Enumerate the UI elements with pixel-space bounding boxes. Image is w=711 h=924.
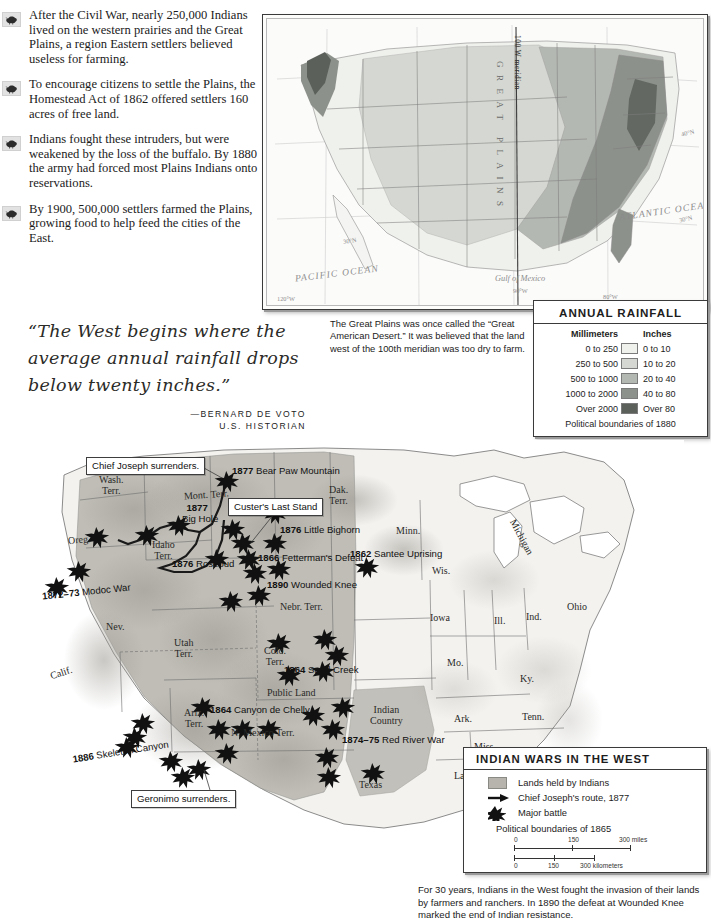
legend-mm-value: 1000 to 2000 bbox=[544, 389, 618, 399]
quote-author: —BERNARD DE VOTO bbox=[28, 408, 306, 420]
quote-credential: U.S. HISTORIAN bbox=[28, 420, 306, 432]
battle-label-rosebud: 1876 Rosebud bbox=[172, 558, 234, 569]
state-label: Ind. bbox=[526, 612, 542, 623]
state-label: Minn. bbox=[396, 526, 420, 537]
legend-mm-value: 500 to 1000 bbox=[544, 374, 618, 384]
pull-quote: “The West begins where the average annua… bbox=[28, 318, 328, 432]
state-label: N. Mexico Terr. bbox=[231, 728, 295, 739]
list-item: To encourage citizens to settle the Plai… bbox=[2, 77, 260, 121]
annual-rainfall-map[interactable]: 100 W meridian GREAT PLAINS PACIFIC OCEA… bbox=[262, 14, 708, 310]
legend-title: ANNUAL RAINFALL bbox=[559, 306, 682, 319]
scale-miles-bar bbox=[514, 845, 666, 851]
legend-row: 0 to 250 0 to 10 bbox=[544, 341, 697, 356]
list-item-text: To encourage citizens to settle the Plai… bbox=[29, 77, 260, 121]
scale-tick-label: 300 miles bbox=[619, 836, 647, 843]
textbook-page: After the Civil War, nearly 250,000 Indi… bbox=[0, 0, 711, 924]
map-canvas: 100 W meridian GREAT PLAINS PACIFIC OCEA… bbox=[266, 18, 704, 306]
legend-body: Millimeters Inches 0 to 250 0 to 10 250 … bbox=[534, 324, 707, 429]
legend-footnote: Political boundaries of 1880 bbox=[544, 419, 697, 429]
grid-label-90w: 90°W bbox=[513, 287, 528, 294]
state-label: Ky. bbox=[520, 674, 534, 685]
legend-in-value: 40 to 80 bbox=[640, 389, 697, 399]
battle-label-red-river-war: 1874–75 Red River War bbox=[342, 734, 445, 745]
state-label: Nev. bbox=[106, 622, 125, 633]
legend-title-bar: INDIAN WARS IN THE WEST bbox=[464, 748, 706, 770]
legend-row: Over 2000 Over 80 bbox=[544, 401, 697, 416]
battle-label-fettermans-defeat: 1866 Fetterman's Defeat bbox=[258, 552, 363, 563]
state-label: Ark. bbox=[454, 714, 472, 725]
legend-in-value: 0 to 10 bbox=[640, 344, 697, 354]
scale-tick-label: 300 kilometers bbox=[580, 862, 623, 869]
battle-label-little-bighorn: 1876 Little Bighorn bbox=[280, 524, 360, 535]
column-header-inches: Inches bbox=[640, 329, 697, 339]
legend-row: 500 to 1000 20 to 40 bbox=[544, 371, 697, 386]
land-swatch bbox=[488, 777, 518, 789]
legend-in-value: 20 to 40 bbox=[640, 374, 697, 384]
quote-attribution: —BERNARD DE VOTO U.S. HISTORIAN bbox=[28, 408, 328, 432]
state-label: IndianCountry bbox=[370, 705, 403, 726]
indian-wars-legend: INDIAN WARS IN THE WEST Lands held by In… bbox=[463, 747, 707, 873]
legend-mm-value: 0 to 250 bbox=[544, 344, 618, 354]
battle-label-santee-uprising: 1862 Santee Uprising bbox=[350, 548, 442, 559]
bison-icon bbox=[2, 206, 21, 221]
rainfall-map-caption: The Great Plains was once called the “Gr… bbox=[330, 318, 530, 355]
state-label: Ariz.Terr. bbox=[184, 708, 204, 729]
state-label: Dak.Terr. bbox=[329, 485, 348, 506]
scale-km-bar bbox=[514, 855, 666, 861]
callout-chief-joseph-surrenders[interactable]: Chief Joseph surrenders. bbox=[86, 457, 205, 475]
state-label: Wash.Terr. bbox=[99, 475, 123, 496]
battle-label-bear-paw: 1877 Bear Paw Mountain bbox=[232, 465, 340, 476]
state-label: UtahTerr. bbox=[174, 638, 193, 659]
scale-tick-label: 150 bbox=[568, 836, 579, 843]
legend-label: Chief Joseph's route, 1877 bbox=[518, 792, 629, 803]
scale-tick-label: 0 bbox=[514, 836, 518, 843]
arrow-icon bbox=[488, 793, 518, 803]
annual-rainfall-legend: ANNUAL RAINFALL Millimeters Inches 0 to … bbox=[533, 300, 708, 437]
grid-label-120w: 120°W bbox=[277, 295, 295, 302]
scale-bar: 0 150 300 miles 0 150 300 kilometers bbox=[514, 836, 666, 871]
state-label: Ohio bbox=[567, 602, 587, 613]
quote-text: “The West begins where the average annua… bbox=[28, 318, 328, 399]
state-label: Iowa bbox=[430, 613, 450, 624]
summary-bullet-list: After the Civil War, nearly 250,000 Indi… bbox=[2, 8, 260, 256]
star-icon bbox=[488, 805, 518, 821]
legend-body: Lands held by Indians Chief Joseph's rou… bbox=[464, 770, 706, 871]
battle-label-sand-creek: 1864 Sand Creek bbox=[284, 664, 359, 675]
list-item-text: By 1900, 500,000 settlers farmed the Pla… bbox=[29, 202, 260, 246]
indian-wars-map-caption: For 30 years, Indians in the West fought… bbox=[418, 884, 710, 922]
callout-geronimo-surrenders[interactable]: Geronimo surrenders. bbox=[131, 790, 236, 808]
state-label: Texas bbox=[359, 780, 382, 791]
legend-row-battle: Major battle bbox=[488, 805, 706, 820]
column-header-millimeters: Millimeters bbox=[544, 329, 618, 339]
bison-icon bbox=[2, 81, 21, 96]
state-label: Nebr. Terr. bbox=[280, 602, 323, 613]
state-label: Public Land bbox=[267, 688, 316, 699]
legend-mm-value: 250 to 500 bbox=[544, 359, 618, 369]
battle-label-canyon-de-chelly: 1864 Canyon de Chelly bbox=[210, 704, 310, 715]
scale-km-numbers: 0 150 300 kilometers bbox=[514, 862, 666, 871]
gulf-of-mexico-label: Gulf of Mexico bbox=[495, 274, 545, 283]
rainfall-map-graphic bbox=[267, 19, 704, 306]
legend-title: INDIAN WARS IN THE WEST bbox=[476, 753, 650, 765]
state-label: Wis. bbox=[432, 566, 450, 577]
scale-miles-numbers: 0 150 300 miles bbox=[514, 836, 666, 845]
meridian-label: 100 W meridian bbox=[513, 35, 522, 90]
list-item-text: Indians fought these intruders, but were… bbox=[29, 132, 260, 190]
legend-in-value: Over 80 bbox=[640, 404, 697, 414]
rainfall-swatch bbox=[621, 403, 638, 414]
legend-row-route: Chief Joseph's route, 1877 bbox=[488, 790, 706, 805]
rainfall-swatch bbox=[621, 373, 638, 384]
state-label: Colo.Terr. bbox=[264, 646, 286, 667]
battle-label-wounded-knee: 1890 Wounded Knee bbox=[267, 579, 357, 590]
battle-label-big-hole: 1877Big Hole bbox=[176, 502, 218, 524]
legend-row: 250 to 500 10 to 20 bbox=[544, 356, 697, 371]
bison-icon bbox=[2, 12, 21, 27]
legend-label: Major battle bbox=[518, 807, 567, 818]
list-item-text: After the Civil War, nearly 250,000 Indi… bbox=[29, 8, 260, 66]
legend-column-headers: Millimeters Inches bbox=[544, 329, 697, 339]
legend-title-bar: ANNUAL RAINFALL bbox=[534, 301, 707, 324]
rainfall-swatch bbox=[621, 388, 638, 399]
legend-row: 1000 to 2000 40 to 80 bbox=[544, 386, 697, 401]
callout-custers-last-stand[interactable]: Custer's Last Stand bbox=[228, 498, 323, 516]
rainfall-swatch bbox=[621, 343, 638, 354]
